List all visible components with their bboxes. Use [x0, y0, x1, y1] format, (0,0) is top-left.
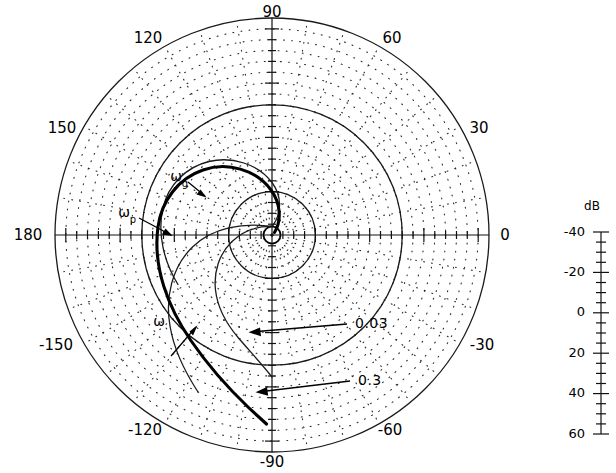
angle-label-minus30: -30	[470, 336, 495, 354]
angle-label-60: 60	[382, 29, 401, 47]
angle-label-minus90: -90	[260, 453, 285, 471]
omega-direction-symbol: ω	[153, 313, 165, 329]
angle-label-minus60: -60	[378, 421, 403, 439]
angle-label-30: 30	[469, 119, 488, 137]
angle-label-0: 0	[500, 226, 510, 244]
omega-g-symbol: ω	[170, 168, 182, 184]
series-curve-03	[157, 167, 279, 424]
polar-chart-figure: 90 120 60 150 30 180 0 -150 -30 -120 -60…	[0, 0, 616, 473]
angle-label-minus150: -150	[39, 336, 73, 354]
db-scale-title: dB	[584, 199, 600, 213]
angle-label-90: 90	[262, 3, 281, 21]
omega-p-symbol: ω	[118, 204, 130, 220]
angle-label-180: 180	[14, 226, 43, 244]
db-tick-label-60: 60	[568, 426, 585, 441]
db-scale: dB -40 -20	[564, 199, 609, 441]
series-label-003: 0.03	[355, 315, 388, 331]
db-tick-label-minus40: -40	[564, 224, 585, 239]
db-tick-label-40: 40	[568, 385, 585, 400]
angle-label-120: 120	[134, 29, 163, 47]
angle-label-150: 150	[48, 119, 77, 137]
omega-g-subscript: g	[182, 178, 188, 189]
polar-plot-canvas: 90 120 60 150 30 180 0 -150 -30 -120 -60…	[0, 0, 616, 473]
series-label-03: 0.3	[358, 372, 382, 388]
angle-label-minus120: -120	[128, 421, 162, 439]
db-tick-label-0: 0	[577, 304, 585, 319]
db-tick-label-20: 20	[568, 345, 585, 360]
omega-p-subscript: p	[130, 214, 136, 225]
series-curve-003	[161, 160, 280, 392]
db-tick-label-minus20: -20	[564, 264, 585, 279]
